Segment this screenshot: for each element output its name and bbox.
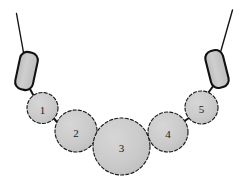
round-bead-group: 12345 bbox=[27, 91, 218, 175]
tube-bead-group bbox=[14, 48, 231, 91]
thread-right bbox=[221, 10, 233, 51]
connector-bead-5-to-right-tube bbox=[209, 87, 213, 93]
tube-bead-right bbox=[204, 48, 231, 89]
bead-1-label: 1 bbox=[40, 104, 46, 116]
connector-left-tube-to-bead-1 bbox=[30, 89, 34, 96]
bead-3-label: 3 bbox=[119, 142, 125, 154]
bead-1: 1 bbox=[27, 93, 58, 124]
bead-5-label: 5 bbox=[199, 103, 205, 115]
tube-bead-left-body bbox=[14, 51, 40, 92]
tube-bead-left bbox=[14, 51, 40, 92]
bead-3: 3 bbox=[93, 118, 150, 175]
bead-2-label: 2 bbox=[73, 127, 79, 139]
necklace-illustration: 12345 bbox=[0, 0, 247, 186]
necklace-diagram: 12345 bbox=[0, 0, 247, 186]
bead-4: 4 bbox=[148, 112, 188, 152]
tube-bead-right-body bbox=[204, 48, 231, 89]
bead-2: 2 bbox=[55, 110, 97, 152]
bead-5: 5 bbox=[185, 91, 218, 124]
thread-group bbox=[17, 10, 233, 53]
thread-left bbox=[17, 14, 24, 53]
bead-4-label: 4 bbox=[165, 128, 171, 140]
